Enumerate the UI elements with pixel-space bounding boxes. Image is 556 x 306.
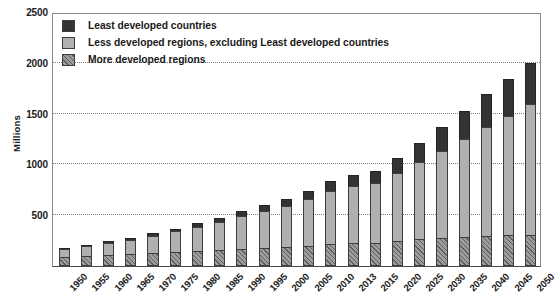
bar-2020 (392, 158, 403, 266)
bar-segment (481, 127, 492, 236)
bar-2040 (481, 94, 492, 266)
bar-2030 (436, 127, 447, 266)
bar-segment (459, 111, 470, 139)
bar-segment (503, 79, 514, 116)
bar-segment (259, 248, 270, 266)
bar-segment (303, 191, 314, 199)
x-tick-label: 2025 (423, 271, 445, 293)
bar-segment (281, 199, 292, 206)
legend-swatch-icon (62, 54, 75, 66)
bar-segment (81, 256, 92, 266)
bar-segment (481, 236, 492, 266)
bar-segment (459, 139, 470, 237)
bar-segment (414, 162, 425, 239)
bar-segment (370, 183, 381, 242)
bar-segment (325, 191, 336, 244)
y-tick-label: 2000 (14, 59, 48, 69)
bar-segment (236, 249, 247, 266)
bar-2005 (303, 191, 314, 266)
bar-2025 (414, 143, 425, 266)
x-tick-label: 2015 (378, 271, 400, 293)
bar-2035 (459, 111, 470, 266)
bar-2045 (503, 79, 514, 266)
x-tick-label: 1980 (200, 271, 222, 293)
bar-segment (192, 251, 203, 266)
bar-segment (436, 238, 447, 266)
y-tick-label: 500 (14, 211, 48, 221)
x-tick-label: 1985 (223, 271, 245, 293)
x-tick-label: 2050 (534, 271, 556, 293)
bar-segment (325, 244, 336, 266)
x-tick-label: 1995 (267, 271, 289, 293)
bar-segment (170, 252, 181, 266)
bar-segment (370, 171, 381, 183)
bar-segment (436, 151, 447, 238)
bar-segment (259, 211, 270, 248)
x-tick-label: 2045 (512, 271, 534, 293)
bar-segment (236, 216, 247, 249)
bar-segment (325, 181, 336, 191)
bar-segment (392, 241, 403, 266)
bar-segment (281, 206, 292, 248)
x-tick-label: 2040 (489, 271, 511, 293)
legend-label: Less developed regions, excluding Least … (88, 37, 389, 48)
bar-segment (481, 94, 492, 127)
x-tick-label: 1950 (67, 271, 89, 293)
bar-segment (59, 249, 70, 258)
bar-segment (125, 240, 136, 255)
bar-1985 (214, 218, 225, 266)
bar-segment (503, 235, 514, 266)
bar-segment (525, 63, 536, 105)
x-tick-label: 2005 (312, 271, 334, 293)
bar-segment (348, 186, 359, 243)
x-axis-tick-labels: 1950195519601965197019751980198519901995… (52, 267, 541, 306)
bar-segment (370, 243, 381, 266)
bar-1955 (81, 245, 92, 266)
bar-segment (392, 158, 403, 173)
bar-2010 (325, 181, 336, 266)
bar-1950 (59, 248, 70, 266)
bar-segment (392, 173, 403, 241)
bar-segment (81, 246, 92, 256)
bar-segment (281, 247, 292, 266)
bar-1965 (125, 238, 136, 266)
bar-segment (214, 250, 225, 266)
bar-2000 (281, 199, 292, 266)
x-tick-label: 2010 (334, 271, 356, 293)
bar-1970 (147, 233, 158, 266)
x-tick-label: 1975 (178, 271, 200, 293)
bar-2050 (525, 63, 536, 266)
x-tick-label: 2035 (467, 271, 489, 293)
legend-item: More developed regions (62, 51, 389, 68)
bar-1960 (103, 241, 114, 266)
bar-segment (170, 231, 181, 252)
bar-segment (525, 235, 536, 266)
y-tick-label: 1500 (14, 110, 48, 120)
bar-segment (59, 257, 70, 266)
x-tick-label: 1970 (156, 271, 178, 293)
bar-segment (503, 116, 514, 235)
bar-segment (414, 143, 425, 162)
y-tick-label: 2500 (14, 8, 48, 18)
y-axis-tick-labels: 5001000150020002500 (8, 0, 48, 306)
bar-2013 (348, 175, 359, 266)
bar-segment (348, 243, 359, 266)
bar-segment (147, 253, 158, 266)
bar-segment (147, 236, 158, 254)
x-tick-label: 2030 (445, 271, 467, 293)
bar-segment (436, 127, 447, 150)
chart-legend: Least developed countriesLess developed … (62, 17, 389, 68)
x-tick-label: 2013 (356, 271, 378, 293)
x-tick-label: 1965 (134, 271, 156, 293)
bar-1990 (236, 211, 247, 266)
legend-item: Less developed regions, excluding Least … (62, 34, 389, 51)
bar-segment (459, 237, 470, 266)
bar-2015 (370, 171, 381, 266)
x-tick-label: 2020 (401, 271, 423, 293)
bar-segment (303, 199, 314, 246)
y-tick-label: 1000 (14, 160, 48, 170)
bar-segment (125, 254, 136, 266)
x-tick-label: 1955 (89, 271, 111, 293)
legend-label: Least developed countries (88, 20, 217, 31)
